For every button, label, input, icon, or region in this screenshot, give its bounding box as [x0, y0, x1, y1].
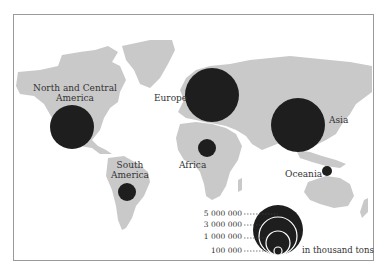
bubble-layer [0, 0, 388, 271]
label-south-america: South America [110, 160, 150, 180]
bubble-africa [198, 139, 216, 157]
legend-label-5000000: 5 000 000 [196, 210, 242, 218]
bubble-europe [185, 68, 239, 122]
bubble-asia [271, 98, 325, 152]
label-oceania: Oceania [285, 169, 322, 179]
legend-label-3000000: 3 000 000 [196, 221, 242, 229]
label-north-america: North and Central America [30, 83, 120, 103]
legend-circles [253, 205, 303, 255]
label-africa: Africa [179, 160, 206, 170]
label-europe: Europe [154, 93, 187, 103]
legend-label-1000000: 1 000 000 [196, 233, 242, 241]
legend-label-100000: 100 000 [196, 247, 242, 255]
legend-unit: in thousand tons [302, 245, 374, 255]
legend-circle-100000 [274, 247, 282, 255]
bubble-south-america [118, 183, 136, 201]
label-asia: Asia [329, 115, 348, 125]
bubble-north-america [50, 105, 94, 149]
bubble-oceania [322, 166, 332, 176]
